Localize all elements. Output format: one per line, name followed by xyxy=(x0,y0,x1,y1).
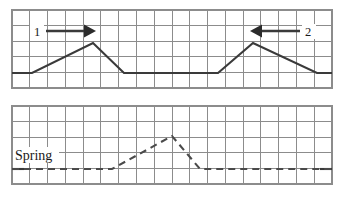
waveform-figure: 1 2 xyxy=(0,0,344,201)
callout-1-label: 1 xyxy=(34,25,40,39)
spring-label: Spring xyxy=(15,148,52,163)
callout-2-label: 2 xyxy=(305,25,311,39)
figure-root: 1 2 xyxy=(0,0,344,201)
spring-label-group: Spring xyxy=(13,147,59,163)
